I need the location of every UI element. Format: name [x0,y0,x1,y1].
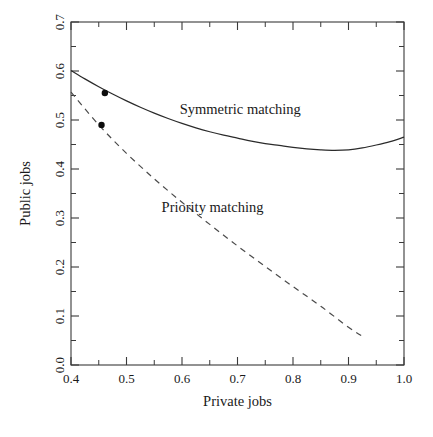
x-axis-title: Private jobs [203,393,272,409]
chart-render-group: 0.40.50.60.70.80.91.00.00.10.20.30.40.50… [17,13,412,409]
x-tick-label: 0.9 [340,371,356,386]
y-tick-label: 0.0 [52,357,67,373]
line-chart: 0.40.50.60.70.80.91.00.00.10.20.30.40.50… [0,0,433,437]
y-tick-label: 0.1 [52,308,67,324]
y-tick-label: 0.6 [52,62,67,79]
x-tick-label: 0.6 [174,371,191,386]
symmetric-equilibrium-point [102,90,108,96]
series-label-symmetric-matching: Symmetric matching [180,101,301,117]
y-tick-label: 0.3 [52,210,67,226]
x-tick-label: 0.7 [229,371,246,386]
y-tick-label: 0.2 [52,259,67,275]
y-tick-label: 0.5 [52,112,67,128]
x-tick-label: 0.8 [285,371,301,386]
y-axis-title: Public jobs [17,161,33,226]
priority-equilibrium-point [98,122,104,128]
series-label-priority-matching: Priority matching [162,199,264,215]
plot-frame [71,22,404,365]
x-tick-label: 0.5 [118,371,134,386]
x-tick-label: 1.0 [396,371,412,386]
y-tick-label: 0.4 [52,160,67,177]
y-tick-label: 0.7 [52,13,67,30]
chart-figure: 0.40.50.60.70.80.91.00.00.10.20.30.40.50… [0,0,433,437]
